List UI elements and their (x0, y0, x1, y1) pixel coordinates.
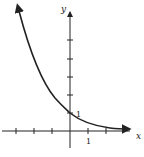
exponential-curve (19, 11, 130, 129)
y-axis-label: y (60, 4, 67, 14)
x-axis-label: x (136, 131, 141, 141)
x-tick-label-1: 1 (86, 137, 91, 146)
exponential-graph: y x 1 1 (0, 0, 144, 157)
y-tick-label-1: 1 (76, 110, 81, 119)
